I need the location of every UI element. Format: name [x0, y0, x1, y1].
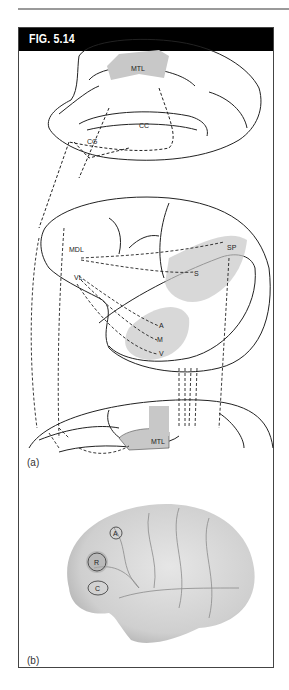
- top-rule: [18, 8, 289, 10]
- figure-frame: FIG. 5.14 MTL CC CG: [18, 27, 274, 668]
- label-mdl: MDL: [69, 246, 84, 253]
- panel-a-illustration: MTL CC CG MDL VL SP S A M V: [19, 28, 275, 669]
- panel-label-a: (a): [27, 457, 39, 468]
- label-cg: CG: [87, 138, 98, 145]
- label-m: M: [157, 336, 163, 343]
- label-v: V: [159, 350, 164, 357]
- label-sp: SP: [227, 244, 237, 251]
- shading-mtl-box: [149, 406, 169, 436]
- shading-temporal: [125, 307, 189, 360]
- label-a: A: [159, 322, 164, 329]
- label-mtl-top: MTL: [131, 65, 145, 72]
- label-cc: CC: [139, 122, 149, 129]
- panel-label-b: (b): [27, 655, 39, 666]
- dashed-connections-bottom: [49, 428, 129, 453]
- label-s: S: [194, 270, 199, 277]
- label-mtl-bottom: MTL: [151, 438, 165, 445]
